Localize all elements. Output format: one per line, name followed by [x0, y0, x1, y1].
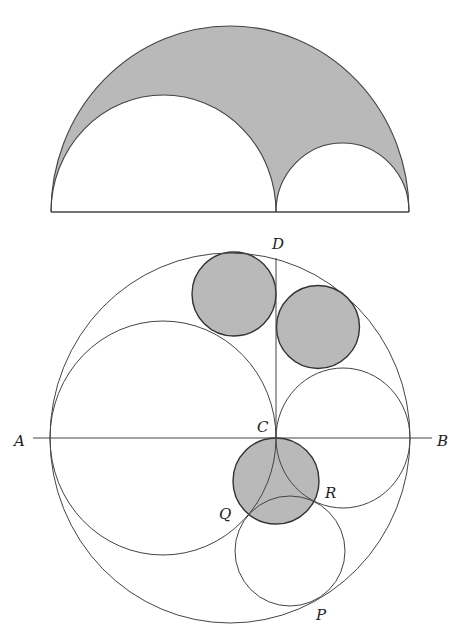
arbelos-shaded-region — [51, 26, 409, 212]
arbelos-figure — [51, 26, 409, 212]
label-B: B — [436, 432, 448, 450]
label-C: C — [257, 418, 269, 436]
label-A: A — [12, 432, 25, 450]
label-R: R — [324, 484, 336, 502]
twin-circles-figure: A B C D P Q R — [12, 235, 448, 624]
diagram-canvas: A B C D P Q R — [0, 0, 466, 637]
label-D: D — [271, 235, 284, 253]
label-Q: Q — [219, 505, 231, 523]
label-P: P — [315, 606, 327, 624]
bankoff-circle — [233, 438, 319, 524]
twin-circle-left — [192, 252, 276, 336]
